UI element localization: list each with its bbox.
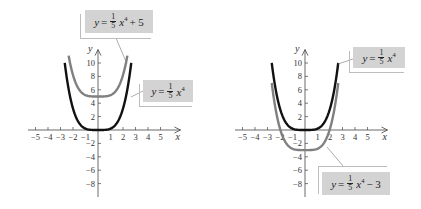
eq-equals: = bbox=[101, 16, 107, 28]
y-axis-label: y bbox=[294, 43, 300, 54]
y-tick-label: −6 bbox=[86, 165, 95, 175]
x-tick-label: −5 bbox=[238, 132, 247, 142]
fraction: 1 5 bbox=[347, 175, 353, 192]
y-tick-label: 6 bbox=[91, 85, 95, 95]
leader-line bbox=[116, 38, 127, 64]
x-axis-label: x bbox=[175, 131, 181, 142]
y-tick-label: −8 bbox=[293, 179, 302, 189]
x-tick-label: 1 bbox=[108, 132, 112, 142]
y-tick-label: 4 bbox=[91, 98, 96, 108]
equation-label-shifted-up: y = 1 5 x4 + 5 bbox=[85, 10, 153, 33]
x-tick-label: −3 bbox=[263, 132, 272, 142]
left-graph: −5−4−3−2−112345−8−6−4−2246810xy bbox=[28, 43, 181, 197]
y-tick-label: 10 bbox=[87, 58, 96, 68]
equation-label-base: y = 1 5 x4 bbox=[353, 47, 405, 68]
fraction: 1 5 bbox=[167, 83, 173, 100]
eq-lhs: y bbox=[94, 16, 99, 28]
x-tick-label: −5 bbox=[31, 132, 40, 142]
y-tick-label: 8 bbox=[298, 71, 302, 81]
x-tick-label: −4 bbox=[43, 132, 53, 142]
equation-label-shifted-down: y = 1 5 x4 − 3 bbox=[322, 172, 390, 195]
x-tick-label: 3 bbox=[340, 132, 344, 142]
y-tick-label: −4 bbox=[86, 152, 96, 162]
y-tick-label: 4 bbox=[298, 98, 303, 108]
y-tick-label: −2 bbox=[293, 138, 302, 148]
x-tick-label: 5 bbox=[365, 132, 369, 142]
leader-line bbox=[327, 147, 343, 166]
x-tick-label: 5 bbox=[158, 132, 162, 142]
y-tick-label: −6 bbox=[293, 165, 302, 175]
y-tick-label: 2 bbox=[91, 112, 95, 122]
y-tick-label: −8 bbox=[86, 179, 95, 189]
y-tick-label: −2 bbox=[86, 138, 95, 148]
y-tick-label: 2 bbox=[298, 112, 302, 122]
x-tick-label: 3 bbox=[133, 132, 137, 142]
eq-tail: + 5 bbox=[129, 16, 143, 28]
x-tick-label: 1 bbox=[315, 132, 319, 142]
x-axis-label: x bbox=[382, 131, 388, 142]
equation-label-base: y = 1 5 x4 bbox=[143, 80, 193, 102]
x-tick-label: 4 bbox=[146, 132, 151, 142]
x-tick-label: 2 bbox=[121, 132, 125, 142]
x-tick-label: −3 bbox=[56, 132, 65, 142]
fraction: 1 5 bbox=[378, 49, 384, 66]
y-axis-label: y bbox=[87, 43, 93, 54]
y-tick-label: 6 bbox=[298, 85, 302, 95]
y-tick-label: −4 bbox=[293, 152, 303, 162]
x-tick-label: 4 bbox=[353, 132, 358, 142]
x-tick-label: −2 bbox=[68, 132, 77, 142]
y-tick-label: 8 bbox=[91, 71, 95, 81]
fraction: 1 5 bbox=[110, 13, 116, 30]
x-tick-label: −4 bbox=[250, 132, 260, 142]
y-tick-label: 10 bbox=[294, 58, 303, 68]
